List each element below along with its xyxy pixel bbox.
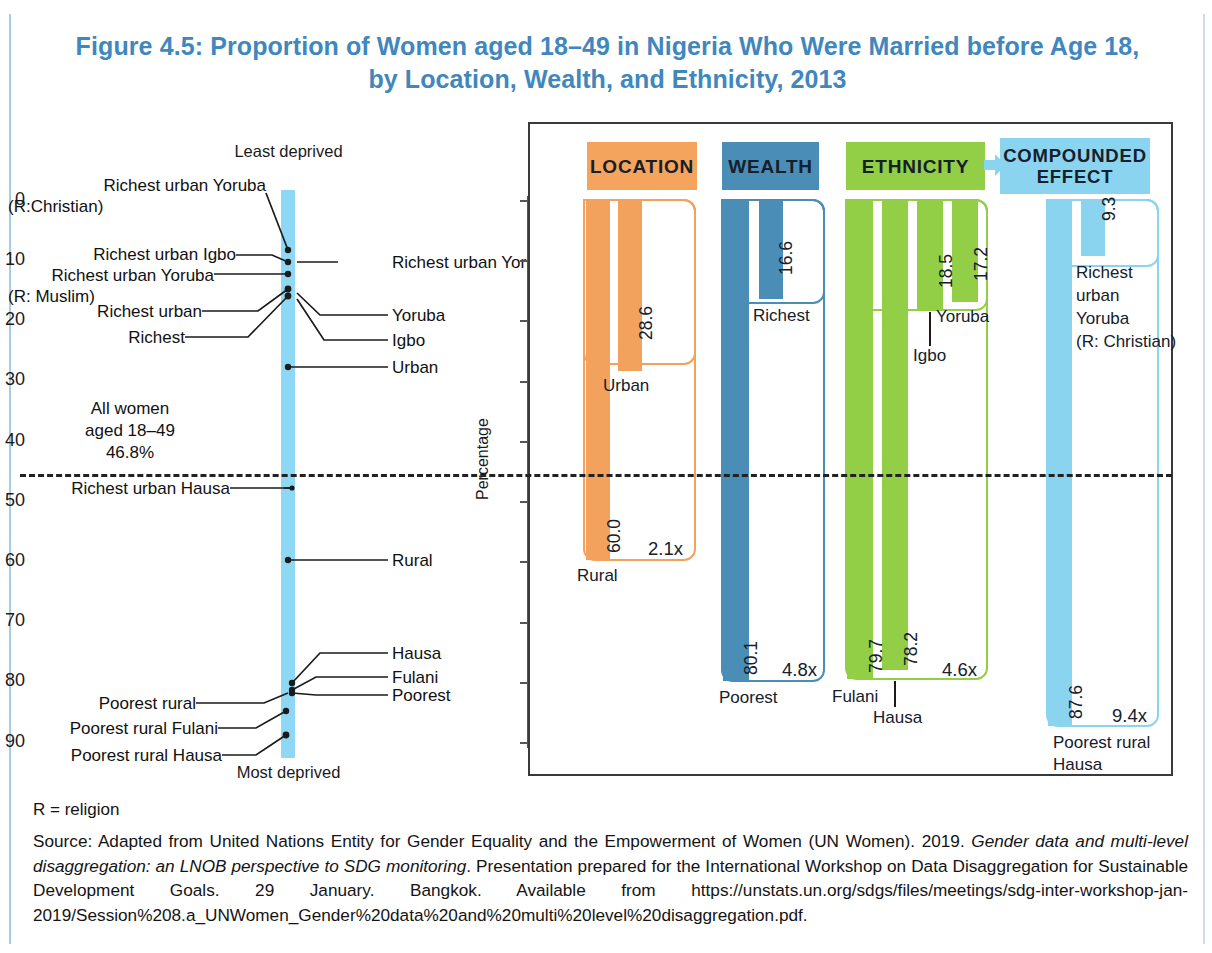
leader-dot-bot4 [283,708,289,714]
leader-dot-3 [285,271,291,277]
label-poorest-rural-hausa: Poorest rural Hausa [8,745,222,766]
leader-richest-urban-yoruba-christian [266,193,288,250]
all-women-reference-line [20,474,1172,477]
bar-label-richest-urban-yoruba: Richest urban Yoruba (R: Christian) [1076,261,1176,353]
ratio-ethnicity: 4.6x [942,659,977,681]
bar-location-urban [618,199,642,371]
leader-poorest-rural-fulani [218,711,286,728]
y-tick-label-20: 20 [0,309,25,330]
bar-label-igbo: Igbo [913,345,946,366]
y-tick-label-0: 0 [0,189,25,210]
leader-right-poorest [292,693,388,695]
bar-compounded-poorest-rural-hausa [1048,199,1072,726]
connector-igbo [929,312,931,346]
y-tick-label-80: 80 [0,670,25,691]
leader-dot-4 [285,286,292,293]
label-right-hausa: Hausa [392,643,441,664]
page-title-line1: Figure 4.5: Proportion of Women aged 18–… [40,30,1175,63]
label-richest-urban: Richest urban [8,301,202,322]
group-header-ethnicity: ETHNICITY [846,142,985,190]
y-tick-mark-40 [520,441,527,443]
bar-label-hausa: Hausa [873,707,922,728]
leader-dot-urban [285,364,291,370]
bar-value-poorest-rural-hausa: 87.6 [1066,685,1087,719]
leader-richest-urban-igbo [236,255,288,262]
label-right-yoruba: Yoruba [392,305,445,326]
bar-value-urban: 28.6 [636,306,657,340]
ratio-wealth: 4.8x [782,659,817,681]
bar-value-poorest: 80.1 [741,641,762,675]
leader-dot-2 [285,259,291,265]
y-tick-mark-60 [520,561,527,563]
label-richest-urban-yoruba-christian: Richest urban Yoruba (R:Christian) [8,175,266,217]
y-tick-mark-80 [520,682,527,684]
label-poorest-rural-fulani: Poorest rural Fulani [8,718,218,739]
leader-dot-bot1 [289,680,295,686]
y-tick-mark-30 [520,381,527,383]
y-tick-label-30: 30 [0,369,25,390]
bar-value-rural: 60.0 [604,519,625,553]
y-tick-mark-90 [520,742,527,744]
all-women-annotation: All women aged 18–49 46.8% [30,398,230,464]
y-tick-label-50: 50 [0,490,25,511]
label-right-igbo: Igbo [392,330,425,351]
y-tick-mark-0 [520,200,527,202]
page-title-line2: by Location, Wealth, and Ethnicity, 2013 [40,63,1175,96]
group-header-compounded-line1: COMPOUNDED [1003,145,1147,166]
leader-richest-urban [202,289,288,311]
leader-dot-5 [285,293,292,300]
bar-wealth-poorest [723,199,749,681]
leader-dot-bot3 [289,690,295,696]
bar-ethnicity-hausa [882,199,908,670]
label-richest-urban-igbo: Richest urban Igbo [8,244,236,265]
bar-value-hausa: 78.2 [901,632,922,666]
bar-label-poorest: Poorest [719,687,778,708]
label-right-urban: Urban [392,357,438,378]
leader-dot-bot5 [283,732,290,739]
bar-value-igbo: 18.5 [936,254,957,288]
footnote-religion: R = religion [33,800,1188,820]
label-richest: Richest [8,327,185,348]
bar-label-richest: Richest [753,305,810,326]
leader-poorest-rural [196,693,288,703]
y-tick-label-60: 60 [0,550,25,571]
leader-dot-hausa [289,485,294,490]
group-header-wealth: WEALTH [722,142,819,190]
figure-footnotes: R = religion Source: Adapted from United… [33,800,1188,927]
bar-value-richest-urban-yoruba: 9.3 [1099,197,1120,221]
ratio-compounded: 9.4x [1112,705,1147,727]
y-tick-label-40: 40 [0,430,25,451]
bar-label-poorest-rural-hausa: Poorest rural Hausa [1053,732,1150,776]
label-right-rural: Rural [392,550,433,571]
source-pre: Source: Adapted from United Nations Enti… [33,831,971,851]
bar-value-yoruba: 17.2 [971,247,992,281]
bar-value-fulani: 79.7 [866,639,887,673]
leader-dot-rural [285,557,291,563]
y-tick-label-10: 10 [0,249,25,270]
label-right-poorest: Poorest [392,685,451,706]
bar-label-yoruba: Yoruba [936,306,989,327]
y-tick-mark-50 [520,501,527,503]
page-right-rule [1203,14,1205,944]
bar-label-rural: Rural [577,565,618,586]
y-tick-label-90: 90 [0,731,25,752]
leader-dot-1 [285,247,291,253]
group-header-location: LOCATION [587,142,697,190]
y-tick-mark-10 [520,260,527,262]
bar-label-urban: Urban [603,375,649,396]
source-note: Source: Adapted from United Nations Enti… [33,829,1188,927]
label-poorest-rural: Poorest rural [8,693,196,714]
figure-page: Figure 4.5: Proportion of Women aged 18–… [0,0,1212,953]
y-tick-mark-20 [520,320,527,322]
leader-right-hausa [292,653,388,683]
bar-ethnicity-fulani [847,199,873,679]
y-axis-title: Percentage [474,418,492,500]
group-header-compounded: COMPOUNDED EFFECT [1000,138,1150,194]
group-header-compounded-line2: EFFECT [1037,166,1114,187]
bar-value-richest: 16.6 [776,241,797,275]
leader-right-fulani [292,677,388,690]
deprivation-panel: Least deprived Most deprived [20,115,530,785]
y-tick-label-70: 70 [0,610,25,631]
connector-hausa [894,681,896,707]
y-tick-mark-70 [520,622,527,624]
